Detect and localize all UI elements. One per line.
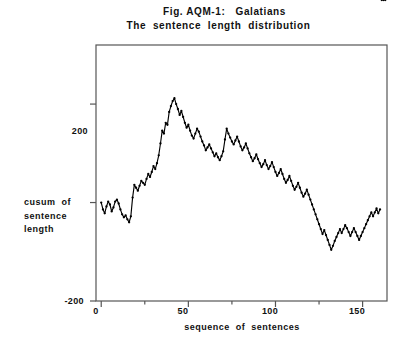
data-point	[281, 173, 283, 175]
data-point	[245, 142, 247, 144]
data-point	[280, 168, 282, 170]
data-point	[290, 180, 292, 182]
data-point	[276, 175, 278, 177]
data-point	[140, 180, 142, 182]
data-point	[210, 147, 212, 149]
data-point	[269, 165, 271, 167]
data-point	[241, 149, 243, 151]
data-point	[292, 185, 294, 187]
data-point	[252, 160, 254, 162]
data-point	[239, 145, 241, 147]
data-point	[224, 138, 226, 140]
data-point	[325, 234, 327, 236]
data-point	[231, 140, 233, 142]
data-point	[165, 122, 167, 124]
data-point	[168, 111, 170, 113]
data-point	[175, 103, 177, 105]
data-point	[182, 116, 184, 118]
data-point	[145, 178, 147, 180]
data-point	[185, 127, 187, 129]
data-point	[220, 155, 222, 157]
plot-area	[0, 0, 409, 352]
data-point	[104, 212, 106, 214]
data-point	[341, 232, 343, 234]
data-point	[320, 228, 322, 230]
data-point	[316, 218, 318, 220]
data-point	[114, 200, 116, 202]
data-point	[288, 175, 290, 177]
data-point	[112, 206, 114, 208]
data-point	[367, 219, 369, 221]
data-point	[287, 179, 289, 181]
data-point	[189, 130, 191, 132]
data-point	[227, 132, 229, 134]
data-point	[170, 105, 172, 107]
data-point	[142, 182, 144, 184]
data-point	[351, 231, 353, 233]
data-point	[267, 168, 269, 170]
data-point	[363, 227, 365, 229]
data-point	[236, 135, 238, 137]
data-point	[330, 249, 332, 251]
data-point	[215, 152, 217, 154]
data-point	[274, 171, 276, 173]
data-point	[219, 159, 221, 161]
data-point	[107, 200, 109, 202]
data-point	[365, 223, 367, 225]
data-point	[191, 134, 193, 136]
data-point	[217, 156, 219, 158]
data-point	[300, 192, 302, 194]
data-point	[266, 164, 268, 166]
data-point	[311, 203, 313, 205]
plot-frame	[96, 45, 387, 301]
data-point	[344, 224, 346, 226]
data-point	[354, 231, 356, 233]
data-point	[203, 144, 205, 146]
data-point	[149, 176, 151, 178]
data-point	[198, 131, 200, 133]
data-point	[196, 128, 198, 130]
data-point	[335, 236, 337, 238]
data-point	[285, 182, 287, 184]
data-point	[118, 202, 120, 204]
data-point	[321, 233, 323, 235]
data-point	[213, 155, 215, 157]
data-point	[126, 218, 128, 220]
data-point	[353, 227, 355, 229]
data-point	[173, 97, 175, 99]
data-point	[192, 137, 194, 139]
data-point	[349, 235, 351, 237]
data-point	[102, 208, 104, 210]
data-point	[309, 198, 311, 200]
data-point	[337, 232, 339, 234]
data-point	[123, 216, 125, 218]
data-point	[255, 153, 257, 155]
data-point	[205, 149, 207, 151]
data-point	[302, 195, 304, 197]
data-point	[156, 162, 158, 164]
data-point	[332, 245, 334, 247]
data-point	[133, 184, 135, 186]
data-point	[328, 244, 330, 246]
data-point	[184, 122, 186, 124]
data-point	[348, 231, 350, 233]
data-point	[260, 166, 262, 168]
data-point	[327, 239, 329, 241]
data-point	[119, 208, 121, 210]
data-point	[297, 182, 299, 184]
data-point	[172, 100, 174, 102]
data-point	[154, 168, 156, 170]
data-point	[212, 151, 214, 153]
data-point	[313, 208, 315, 210]
data-point	[177, 108, 179, 110]
data-point	[295, 186, 297, 188]
data-point	[222, 150, 224, 152]
data-point	[166, 124, 168, 126]
data-point	[121, 213, 123, 215]
data-point	[318, 223, 320, 225]
cusum-markers	[100, 0, 386, 251]
data-point	[306, 189, 308, 191]
data-point	[109, 203, 111, 205]
data-point	[278, 172, 280, 174]
data-point	[246, 147, 248, 149]
